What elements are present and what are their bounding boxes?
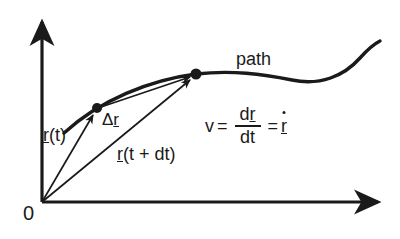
differential-d: d (240, 104, 250, 124)
formula-equals-first: = (217, 117, 228, 135)
origin-label: 0 (23, 203, 34, 223)
fraction-denominator: dt (238, 127, 257, 147)
path-label: path (236, 50, 271, 68)
fraction-numerator: dr (238, 105, 258, 125)
delta-symbol: Δ (102, 110, 113, 129)
overdot-accent-icon (283, 111, 286, 114)
vector-symbol-r: r (113, 110, 119, 129)
vector-delta-r (98, 77, 190, 108)
formula-equals-second: = (268, 117, 279, 135)
derivative-fraction: dr dt (235, 105, 261, 147)
physics-diagram: 0 r(t) Δr r(t + dt) path v = dr dt = r (0, 0, 400, 239)
delta-r-label: Δr (102, 111, 119, 128)
formula-lhs-v: v (205, 117, 214, 135)
point-r-t-plus-dt (191, 69, 202, 80)
velocity-formula: v = dr dt = r (205, 105, 287, 147)
vector-r-t-plus-dt-label: r(t + dt) (117, 145, 176, 163)
diagram-canvas (0, 0, 400, 239)
vector-r-t-plus-dt-argument: (t + dt) (123, 144, 176, 164)
vector-symbol-r: r (250, 104, 256, 124)
vector-symbol-r: r (281, 116, 287, 136)
vector-r-t-label: r(t) (43, 126, 66, 144)
r-dot-symbol: r (281, 117, 287, 135)
vector-r-t-argument: (t) (49, 125, 66, 145)
point-r-t (92, 103, 102, 113)
